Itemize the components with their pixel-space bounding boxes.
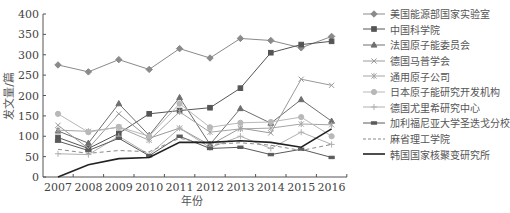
y-tick-label: 250 — [18, 69, 39, 82]
legend-item: 中国科学院 — [362, 22, 510, 38]
legend-item: 法国原子能委员会 — [362, 37, 510, 53]
data-point-marker — [207, 125, 212, 130]
data-point-marker — [85, 69, 91, 75]
legend-swatch-icon — [362, 133, 386, 145]
y-tick-label: 350 — [18, 28, 39, 41]
x-tick-label: 2010 — [135, 181, 163, 194]
legend-swatch-icon — [362, 117, 386, 129]
x-tick-label: 2012 — [196, 181, 224, 194]
y-axis-label: 发文量/篇 — [2, 72, 16, 120]
data-point-marker — [268, 153, 273, 155]
data-point-marker — [177, 101, 182, 106]
legend-swatch-icon — [362, 23, 386, 35]
data-point-marker — [116, 124, 121, 129]
data-point-marker — [299, 114, 304, 119]
y-tick-label: 0 — [32, 171, 39, 184]
data-point-marker — [268, 145, 274, 151]
x-tick-label: 2009 — [105, 181, 133, 194]
series-line — [58, 36, 332, 71]
legend-swatch-icon — [362, 70, 386, 82]
data-point-marker — [55, 111, 60, 116]
data-point-marker — [238, 86, 243, 91]
series-line — [58, 136, 332, 157]
chart-series — [55, 33, 335, 177]
data-point-marker — [298, 129, 304, 135]
data-point-marker — [177, 135, 182, 137]
data-point-marker — [371, 104, 377, 110]
chart-axes: 0501001502002503003504002007200820092010… — [18, 8, 347, 194]
data-point-marker — [329, 39, 334, 44]
series-line — [58, 104, 332, 137]
y-tick-label: 400 — [18, 8, 39, 21]
legend-label: 麻省理工学院 — [390, 131, 450, 146]
data-point-marker — [55, 62, 61, 68]
y-tick-label: 200 — [18, 90, 39, 103]
series-0 — [55, 33, 335, 75]
data-point-marker — [56, 135, 61, 140]
legend-label: 美国能源部国家实验室 — [390, 6, 490, 21]
legend-label: 中国科学院 — [390, 22, 440, 37]
data-point-marker — [86, 130, 91, 135]
legend-swatch-icon — [362, 39, 386, 51]
data-point-marker — [237, 133, 243, 139]
data-point-marker — [116, 101, 122, 106]
data-point-marker — [268, 37, 274, 43]
series-3 — [55, 77, 334, 151]
chart-legend: 美国能源部国家实验室中国科学院法国原子能委员会德国马普学会通用原子公司日本原子能… — [362, 6, 510, 162]
data-point-marker — [238, 146, 243, 148]
data-point-marker — [147, 134, 152, 139]
data-point-marker — [85, 151, 91, 157]
legend-label: 通用原子公司 — [390, 69, 450, 84]
data-point-marker — [55, 151, 61, 157]
x-tick-label: 2015 — [287, 181, 315, 194]
legend-item: 加利福尼亚大学圣迭戈分校 — [362, 115, 510, 131]
legend-item: 日本原子能研究开发机构 — [362, 84, 510, 100]
data-point-marker — [176, 45, 182, 51]
data-point-marker — [207, 147, 212, 149]
data-point-marker — [147, 112, 152, 117]
data-point-marker — [146, 66, 152, 72]
legend-label: 韩国国家核聚变研究所 — [390, 147, 490, 162]
y-tick-label: 100 — [18, 130, 39, 143]
line-chart: 0501001502002503003504002007200820092010… — [0, 0, 360, 213]
legend-label: 德国尤里希研究中心 — [390, 100, 480, 115]
data-point-marker — [116, 137, 121, 139]
data-point-marker — [269, 50, 274, 55]
data-point-marker — [55, 140, 60, 142]
legend-item: 麻省理工学院 — [362, 131, 510, 147]
legend-swatch-icon — [362, 86, 386, 98]
x-tick-label: 2007 — [44, 181, 72, 194]
legend-item: 韩国国家核聚变研究所 — [362, 146, 510, 162]
legend-label: 法国原子能委员会 — [390, 37, 470, 52]
x-tick-label: 2013 — [226, 181, 254, 194]
x-axis-label: 年份 — [181, 194, 203, 208]
data-point-marker — [329, 134, 334, 139]
legend-label: 德国马普学会 — [390, 53, 450, 68]
legend-item: 德国马普学会 — [362, 53, 510, 69]
x-tick-label: 2014 — [257, 181, 285, 194]
y-tick-label: 150 — [18, 110, 39, 123]
legend-swatch-icon — [362, 148, 386, 160]
data-point-marker — [86, 149, 91, 151]
y-tick-label: 50 — [25, 151, 39, 164]
legend-item: 通用原子公司 — [362, 68, 510, 84]
legend-item: 美国能源部国家实验室 — [362, 6, 510, 22]
data-point-marker — [177, 94, 183, 99]
data-point-marker — [238, 120, 243, 125]
legend-item: 德国尤里希研究中心 — [362, 100, 510, 116]
legend-swatch-icon — [362, 55, 386, 67]
legend-label: 日本原子能研究开发机构 — [390, 84, 500, 99]
data-point-marker — [371, 122, 376, 124]
data-point-marker — [329, 156, 334, 158]
data-point-marker — [237, 35, 243, 41]
legend-swatch-icon — [362, 101, 386, 113]
data-point-marker — [116, 56, 122, 62]
data-point-marker — [371, 11, 377, 17]
data-point-marker — [238, 105, 244, 110]
data-point-marker — [208, 105, 213, 110]
data-point-marker — [116, 111, 121, 116]
data-point-marker — [299, 42, 304, 47]
x-tick-label: 2011 — [166, 181, 194, 194]
data-point-marker — [207, 55, 213, 61]
data-point-marker — [371, 89, 376, 94]
